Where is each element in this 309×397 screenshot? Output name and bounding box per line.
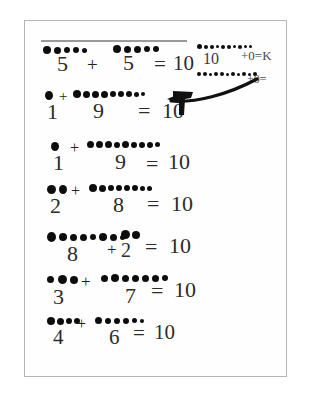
dot [132, 231, 140, 239]
dot [57, 318, 64, 325]
dot [59, 233, 67, 241]
eq-7-left-dot-group [47, 317, 80, 325]
dot [197, 72, 201, 76]
dot [47, 317, 55, 325]
dot [114, 142, 120, 148]
dot [95, 317, 102, 324]
equation-row-1: 5 + 5 = 10 10 +0=K [25, 21, 286, 69]
dot [121, 230, 130, 239]
dot [197, 44, 202, 49]
eq-3-right-dot-group [87, 141, 160, 148]
dot [92, 91, 99, 98]
dot [47, 232, 56, 242]
dot [73, 47, 79, 53]
dot [204, 45, 208, 49]
dot [140, 186, 145, 191]
equation-row-2: 1 + 9 = 10 +0= [25, 69, 286, 117]
dot [139, 142, 145, 148]
dot [70, 276, 78, 284]
rule-line-above [41, 40, 187, 42]
dot [123, 318, 129, 324]
eq-6-left-dot-group [47, 275, 78, 284]
eq-4-sum: 10 [171, 193, 193, 215]
dot [122, 275, 129, 282]
eq-7-left-addend: 4 [53, 327, 64, 348]
dot [113, 45, 121, 53]
dot [82, 48, 87, 53]
dot [147, 142, 153, 148]
eq-4-left-addend: 2 [50, 195, 61, 217]
dot [110, 91, 116, 97]
eq-4-right-addend: 8 [113, 194, 124, 216]
dot [141, 92, 145, 96]
dot [126, 91, 132, 97]
ink-blob-mark [171, 87, 197, 117]
dot [99, 185, 106, 192]
eq-2-right-dot-group [73, 90, 145, 98]
dot [99, 233, 107, 241]
eq-5-equals-sign: = [145, 236, 157, 258]
eq-5-right-addend: 2 [121, 240, 131, 260]
dot [134, 92, 139, 97]
eq-4-plus-sign: + [71, 183, 80, 199]
dot [147, 186, 152, 191]
equation-row-6: 3 + 7 = 10 [25, 261, 286, 309]
dot [221, 45, 225, 49]
dot [214, 72, 218, 76]
dot [89, 184, 97, 192]
dot [124, 185, 130, 191]
dot [231, 72, 235, 76]
eq-1-right-dot-group [113, 45, 159, 53]
dot [70, 234, 77, 241]
worksheet-content: 5 + 5 = 10 10 +0=K 1 [25, 21, 286, 376]
eq-4-right-dot-group [89, 184, 152, 192]
dot [237, 73, 240, 76]
dot [108, 185, 114, 191]
dot [90, 234, 96, 240]
dot [83, 91, 90, 98]
dot [132, 185, 138, 191]
dot [116, 185, 122, 191]
dot [73, 90, 81, 98]
dot [227, 45, 231, 49]
dot [118, 91, 124, 97]
dot [203, 72, 207, 76]
dot [144, 46, 150, 52]
eq-2-right-addend: 9 [93, 100, 104, 122]
equation-row-3: 1 + 9 = 10 [25, 129, 286, 177]
dot [114, 318, 120, 324]
eq-7-right-addend: 6 [109, 327, 120, 348]
dot [66, 318, 72, 324]
eq-7-plus-sign: + [77, 316, 86, 332]
equation-row-5: 8 + 2 = 10 [25, 217, 286, 265]
eq-6-sum: 10 [174, 279, 196, 301]
dot [47, 276, 54, 283]
dot [101, 275, 108, 282]
eq-3-sum: 10 [168, 151, 190, 173]
dot [105, 318, 111, 324]
dot [134, 46, 141, 53]
dot [155, 142, 160, 147]
dot [209, 73, 212, 76]
dot [142, 275, 149, 282]
dot [132, 275, 139, 282]
eq-7-equals-sign: = [133, 323, 145, 344]
eq-5-right-dot-group [121, 230, 140, 239]
eq-7-sum: 10 [154, 322, 175, 343]
eq-3-right-addend: 9 [115, 151, 126, 173]
dot [43, 46, 51, 54]
eq-6-plus-sign: + [81, 273, 91, 290]
eq-2-plus-sign: + [59, 89, 67, 104]
equation-row-7: 4 + 6 = 10 [25, 303, 286, 351]
eq-5-sum: 10 [169, 235, 191, 257]
dot [131, 142, 137, 148]
dot [220, 72, 224, 76]
screenshot-canvas: 5 + 5 = 10 10 +0=K 1 [0, 0, 309, 397]
dot [105, 141, 112, 148]
dot [233, 45, 236, 48]
dot [101, 91, 108, 98]
dot [87, 141, 94, 148]
dot [122, 141, 129, 148]
eq-2-equals-sign: = [138, 100, 150, 122]
dot [111, 274, 119, 282]
